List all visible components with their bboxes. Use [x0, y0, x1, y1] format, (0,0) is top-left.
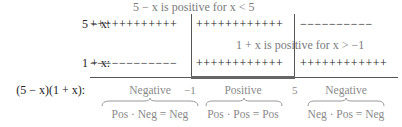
brace-middle [204, 98, 284, 108]
divider-at-5 [294, 14, 295, 78]
signs-1-plus-x-left: −−−−−−−−−−−− [90, 56, 177, 71]
signs-1-plus-x-right: ++++++++++++ [300, 56, 387, 71]
signs-5-minus-x-left: ++++++++++++ [90, 17, 177, 32]
brace-left [100, 98, 200, 108]
region-right-sign: Negative [296, 84, 396, 96]
brace-right [306, 98, 386, 108]
formula-middle: Pos · Pos = Pos [193, 108, 293, 120]
row-label-product: (5 − x)(1 + x): [0, 83, 85, 98]
note-1-plus-x-positive: 1 + x is positive for x > −1 [236, 38, 364, 53]
note-5-minus-x-positive: 5 − x is positive for x < 5 [133, 0, 255, 15]
region-middle-sign: Positive [193, 84, 293, 96]
signs-5-minus-x-right: −−−−−−−−−− [300, 17, 373, 32]
formula-right: Neg · Pos = Neg [296, 108, 396, 120]
formula-left: Pos · Neg = Neg [100, 108, 200, 120]
signs-5-minus-x-middle: ++++++++++++ [196, 17, 283, 32]
positive-interval-highlight [191, 76, 295, 79]
divider-at-minus-1 [191, 14, 192, 78]
signs-1-plus-x-middle: ++++++++++++ [196, 56, 283, 71]
